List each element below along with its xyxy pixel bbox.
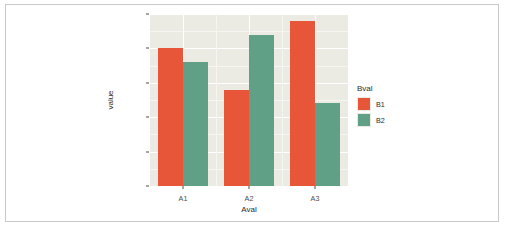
x-tick-label: A3 (311, 194, 320, 203)
x-tick-mark (315, 186, 316, 189)
y-tick-mark (146, 186, 149, 187)
y-tick-mark (146, 117, 149, 118)
x-tick-mark (183, 186, 184, 189)
bar-A3-B2 (315, 103, 340, 186)
legend-item-B2[interactable]: B2 (357, 113, 385, 127)
bar-A1-B1 (158, 48, 183, 186)
chart-panel (150, 14, 348, 186)
bar-A2-B1 (224, 90, 249, 186)
legend: Bval B1B2 (357, 84, 385, 129)
y-axis: 0.02.55.07.510.012.5 (0, 0, 150, 228)
figure-canvas: 0.02.55.07.510.012.5 value A1A2A3 Aval B… (0, 0, 506, 228)
gridline-minor-vertical (282, 14, 283, 186)
plot-area: 0.02.55.07.510.012.5 value A1A2A3 Aval B… (0, 0, 506, 228)
bar-A1-B2 (183, 62, 208, 186)
legend-item-B1[interactable]: B1 (357, 97, 385, 111)
y-tick-mark (146, 151, 149, 152)
x-tick-mark (249, 186, 250, 189)
legend-entries: B1B2 (357, 97, 385, 127)
bar-A3-B1 (290, 21, 315, 186)
gridline-minor-vertical (216, 14, 217, 186)
legend-swatch-B2 (358, 114, 370, 126)
y-tick-mark (146, 82, 149, 83)
x-axis-title: Aval (241, 205, 256, 214)
x-tick-label: A2 (245, 194, 254, 203)
bar-A2-B2 (249, 35, 274, 186)
x-tick-label: A1 (179, 194, 188, 203)
y-tick-mark (146, 48, 149, 49)
y-tick-mark (146, 14, 149, 15)
legend-key-background (357, 97, 371, 111)
legend-title: Bval (357, 84, 385, 93)
legend-label: B2 (376, 116, 385, 125)
legend-key-background (357, 113, 371, 127)
legend-swatch-B1 (358, 98, 370, 110)
y-axis-title: value (106, 90, 115, 109)
legend-label: B1 (376, 100, 385, 109)
